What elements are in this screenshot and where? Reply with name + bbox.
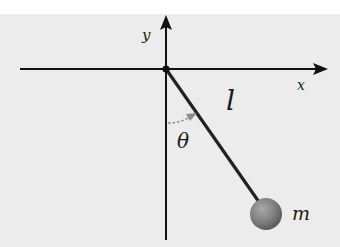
- pivot-point: [162, 65, 169, 72]
- y-axis-label: y: [141, 26, 151, 44]
- y-axis: [160, 15, 172, 240]
- x-axis-label: x: [297, 77, 305, 93]
- angle-label: θ: [177, 129, 189, 153]
- pendulum-bob: [250, 198, 282, 230]
- angle-arrow-icon: [168, 113, 197, 123]
- length-label: l: [226, 84, 235, 117]
- mass-label: m: [292, 202, 310, 224]
- x-axis: [20, 63, 328, 75]
- pendulum-diagram: y x l θ m: [0, 0, 340, 247]
